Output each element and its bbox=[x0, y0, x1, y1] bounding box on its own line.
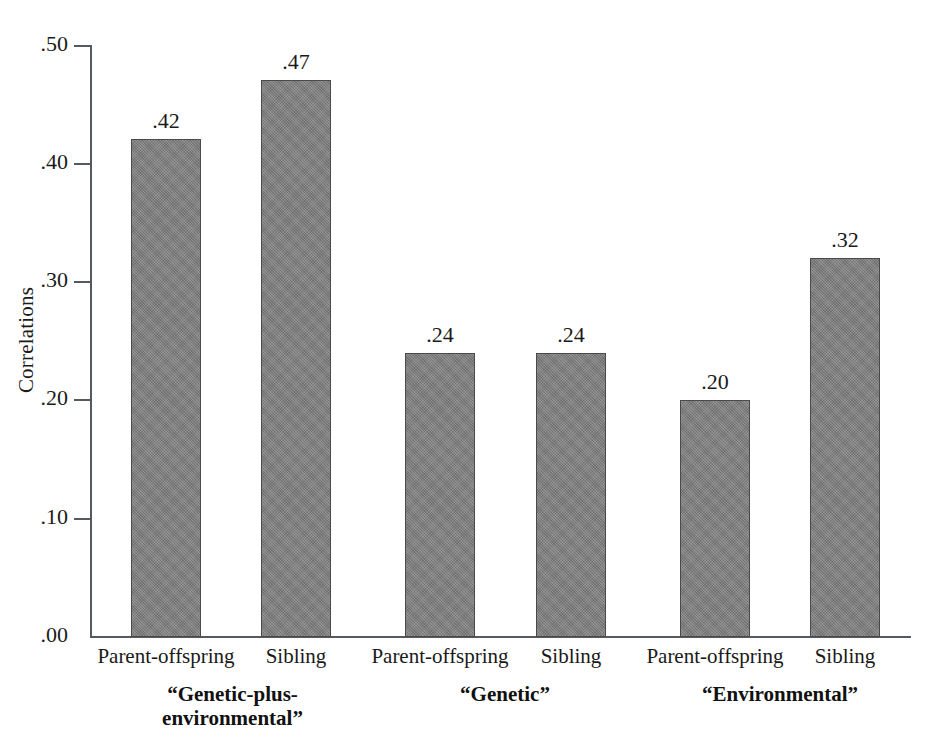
bar-environmental-parent-offspring bbox=[680, 400, 750, 637]
x-axis-line bbox=[90, 636, 911, 638]
bar-value-label: .20 bbox=[680, 369, 750, 395]
y-tick-label-10: .10 bbox=[10, 504, 68, 530]
x-category-label: Sibling bbox=[506, 644, 636, 669]
y-axis-title: Correlations bbox=[14, 60, 54, 620]
bar-genetic-parent-offspring bbox=[405, 353, 475, 637]
y-tick-label-20: .20 bbox=[10, 385, 68, 411]
x-category-label: Parent-offspring bbox=[350, 644, 530, 669]
y-tick-mark-40 bbox=[74, 163, 91, 165]
bar-environmental-sibling bbox=[810, 258, 880, 637]
group-label-line-1: “Environmental” bbox=[665, 683, 895, 707]
bar-value-label: .32 bbox=[810, 227, 880, 253]
group-label-line-1: “Genetic” bbox=[395, 683, 615, 707]
x-category-label: Parent-offspring bbox=[625, 644, 805, 669]
bar-value-label: .42 bbox=[131, 108, 201, 134]
y-tick-mark-30 bbox=[74, 281, 91, 283]
y-tick-mark-10 bbox=[74, 518, 91, 520]
x-group-label-genetic: “Genetic” bbox=[395, 683, 615, 707]
y-axis-line bbox=[90, 45, 92, 638]
bar-chart: Correlations .50 .40 .30 .20 .10 .00 .42… bbox=[0, 0, 950, 742]
x-category-label: Parent-offspring bbox=[76, 644, 256, 669]
group-label-line-1: “Genetic-plus- bbox=[110, 683, 355, 707]
bar-genetic-sibling bbox=[536, 353, 606, 637]
bar-genetic-plus-environmental-parent-offspring bbox=[131, 139, 201, 637]
y-tick-mark-20 bbox=[74, 399, 91, 401]
bar-genetic-plus-environmental-sibling bbox=[261, 80, 331, 637]
x-group-label-environmental: “Environmental” bbox=[665, 683, 895, 707]
y-tick-mark-50 bbox=[74, 45, 91, 47]
y-tick-label-50: .50 bbox=[10, 31, 68, 57]
x-category-label: Sibling bbox=[231, 644, 361, 669]
y-tick-label-00: .00 bbox=[10, 622, 68, 648]
x-group-label-genetic-plus-environmental: “Genetic-plus- environmental” bbox=[110, 683, 355, 730]
y-tick-label-30: .30 bbox=[10, 267, 68, 293]
group-label-line-2: environmental” bbox=[110, 707, 355, 731]
bar-value-label: .24 bbox=[405, 322, 475, 348]
y-tick-label-40: .40 bbox=[10, 149, 68, 175]
bar-value-label: .47 bbox=[261, 49, 331, 75]
x-category-label: Sibling bbox=[780, 644, 910, 669]
bar-value-label: .24 bbox=[536, 322, 606, 348]
